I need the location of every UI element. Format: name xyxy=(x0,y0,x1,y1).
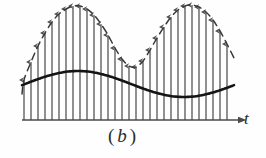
t-axis-label: t xyxy=(244,110,249,127)
caption-close-paren: ) xyxy=(130,125,137,146)
signal-figure: t (b) xyxy=(0,0,266,158)
dashed-envelope-curve xyxy=(22,5,234,94)
caption-letter: b xyxy=(115,125,130,146)
subfigure-caption: (b) xyxy=(108,126,137,145)
solid-modulating-curve xyxy=(22,71,234,97)
